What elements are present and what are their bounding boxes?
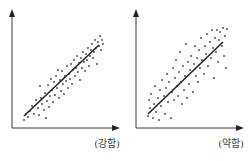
data-point <box>196 57 198 59</box>
data-point <box>165 87 167 89</box>
data-point <box>96 63 98 65</box>
data-point <box>73 59 75 61</box>
data-point <box>157 97 159 99</box>
data-point <box>174 77 176 79</box>
data-point <box>204 45 206 47</box>
data-point <box>97 41 99 43</box>
data-point <box>67 87 69 89</box>
data-point <box>209 41 211 43</box>
data-point <box>48 106 50 108</box>
data-point <box>152 117 154 119</box>
data-point <box>69 78 71 80</box>
x-axis-arrow-icon <box>112 125 120 131</box>
data-point <box>35 99 37 101</box>
data-point <box>187 61 189 63</box>
data-point <box>182 65 184 67</box>
data-point <box>221 45 223 47</box>
data-point <box>66 65 68 67</box>
data-point <box>197 81 199 83</box>
data-point <box>81 67 83 69</box>
data-point <box>92 57 94 59</box>
data-point <box>212 47 214 49</box>
data-point <box>161 79 163 81</box>
data-point <box>60 90 62 92</box>
data-point <box>181 103 183 105</box>
data-point <box>175 59 177 61</box>
data-point <box>85 53 87 55</box>
data-point <box>173 99 175 101</box>
data-point <box>154 85 156 87</box>
data-point <box>100 49 102 51</box>
data-point <box>76 55 78 57</box>
data-point <box>150 93 152 95</box>
data-point <box>207 65 209 67</box>
data-point <box>83 61 85 63</box>
data-point <box>219 31 221 33</box>
data-point <box>47 84 49 86</box>
data-point <box>41 103 43 105</box>
data-point <box>211 29 213 31</box>
data-point <box>178 71 180 73</box>
data-point <box>88 65 90 67</box>
data-point <box>222 27 224 29</box>
data-point <box>168 81 170 83</box>
data-point <box>215 51 217 53</box>
data-point <box>177 95 179 97</box>
data-point <box>172 67 174 69</box>
data-point <box>37 107 39 109</box>
data-point <box>39 85 41 87</box>
data-point <box>155 111 157 113</box>
data-point <box>147 115 149 117</box>
trend-line <box>24 45 99 116</box>
data-point <box>53 81 55 83</box>
data-point <box>189 69 191 71</box>
data-point <box>44 92 46 94</box>
data-point <box>167 101 169 103</box>
data-point <box>55 75 57 77</box>
data-point <box>214 37 216 39</box>
data-point <box>54 94 56 96</box>
correlation-figure: (강함) (약함) <box>0 0 252 161</box>
data-point <box>65 80 67 82</box>
data-point <box>91 43 93 45</box>
data-point <box>203 73 205 75</box>
data-point <box>101 39 103 41</box>
data-point <box>38 114 40 116</box>
data-point <box>74 75 76 77</box>
data-point <box>52 101 54 103</box>
data-point <box>71 83 73 85</box>
data-point <box>87 47 89 49</box>
data-point <box>89 55 91 57</box>
data-point <box>27 116 29 118</box>
data-point <box>194 45 196 47</box>
data-point <box>183 89 185 91</box>
data-point <box>86 59 88 61</box>
data-point <box>205 53 207 55</box>
data-point <box>206 33 208 35</box>
data-point <box>193 63 195 65</box>
data-point <box>70 63 72 65</box>
points <box>147 27 228 121</box>
data-point <box>77 71 79 73</box>
trend-line <box>148 42 223 114</box>
data-point <box>188 83 190 85</box>
data-point <box>84 70 86 72</box>
data-point <box>62 83 64 85</box>
y-axis-arrow-icon <box>9 9 15 17</box>
scatter-weak: (약함) <box>133 9 244 149</box>
data-point <box>63 93 65 95</box>
data-point <box>90 49 92 51</box>
data-point <box>213 77 215 79</box>
data-point <box>158 119 160 121</box>
data-point <box>46 100 48 102</box>
data-point <box>199 67 201 69</box>
data-point <box>159 89 161 91</box>
data-point <box>218 39 220 41</box>
data-point <box>23 119 25 121</box>
data-point <box>43 109 45 111</box>
data-point <box>200 37 202 39</box>
data-point <box>210 57 212 59</box>
data-point <box>170 117 172 119</box>
data-point <box>198 49 200 51</box>
data-point <box>149 107 151 109</box>
